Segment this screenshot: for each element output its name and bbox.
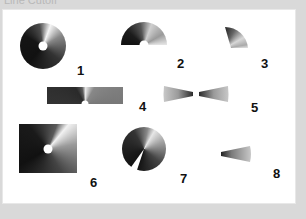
shape-6-square: [19, 124, 77, 173]
label-6: 6: [90, 176, 97, 189]
label-4: 4: [139, 100, 146, 113]
label-2: 2: [177, 57, 184, 70]
shape-3-quarter-wedge: [224, 26, 250, 50]
label-5: 5: [251, 101, 258, 114]
shape-1-donut: [19, 22, 67, 70]
label-3: 3: [261, 57, 268, 70]
figure-caption: Line Cutoff: [4, 0, 57, 6]
figure-panel: 1 2 3: [3, 10, 295, 203]
shape-8-narrow-wedge: [220, 145, 252, 163]
label-1: 1: [77, 64, 84, 77]
shape-4-rectangle: [47, 87, 123, 105]
shape-2-half-disc: [120, 21, 168, 47]
shape-7-pie-cutout: [119, 124, 169, 174]
label-8: 8: [273, 167, 280, 180]
shape-5-bowtie: [163, 85, 229, 105]
label-7: 7: [180, 172, 187, 185]
